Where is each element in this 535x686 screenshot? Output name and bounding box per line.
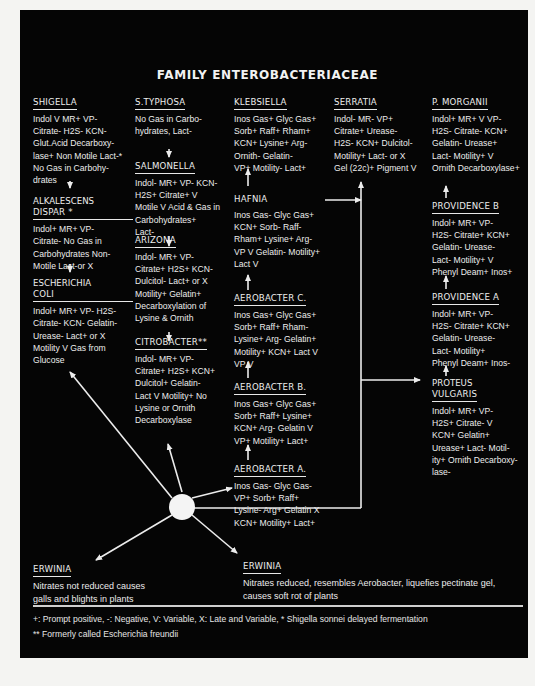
- trait-line: Glucose: [33, 354, 133, 366]
- trait-line: Lysine & Ornith: [135, 312, 230, 324]
- diagram-title: FAMILY ENTEROBACTERIACEAE: [0, 68, 535, 82]
- trait-line: Lysine or Ornith: [135, 402, 230, 414]
- trait-line: Sorb+ Raff+ Rham-: [234, 321, 329, 333]
- trait-line: VP+ Motility+ Lact+: [234, 435, 329, 447]
- trait-line: ity+ Ornith Decarboxy-: [432, 454, 527, 466]
- klebsiella-block: KLEBSIELLA Inos Gas+ Glyc Gas+ Sorb+ Raf…: [234, 96, 329, 174]
- trait-line: Motility+ Lact- or X: [334, 150, 429, 162]
- trait-line: No Gas in Carbohy-: [33, 162, 138, 174]
- ecoli-name-1: ESCHERICHIA: [33, 277, 133, 289]
- trait-line: Ornith Decarboxylase+: [432, 162, 527, 174]
- trait-line: Indol+ MR+ VP-: [432, 217, 527, 229]
- trait-line: KCN+ Sorb- Raff-: [234, 221, 329, 233]
- shigella-block: SHIGELLA Indol V MR+ VP- Citrate- H2S- K…: [33, 96, 138, 186]
- trait-line: Lact- Motility+ V: [432, 254, 527, 266]
- trait-line: Urease+ Lact- Motil-: [432, 442, 527, 454]
- proteus-name-1: PROTEUS: [432, 378, 527, 388]
- hafnia-block: HAFNIA Inos Gas- Glyc Gas+ KCN+ Sorb- Ra…: [234, 193, 329, 270]
- trait-line: H2S- Citrate+ KCN+: [432, 229, 527, 241]
- providence-b-name: PROVIDENCE B: [432, 201, 499, 214]
- trait-line: Indol- MR- VP+: [334, 113, 429, 125]
- erwinia-right-block: ERWINIA Nitrates reduced, resembles Aero…: [243, 560, 495, 602]
- citrobacter-name: CITROBACTER**: [135, 337, 207, 350]
- trait-line: Phenyl Deam+ Inos-: [432, 357, 527, 369]
- trait-line: Lact V Motility+ No: [135, 390, 230, 402]
- trait-line: Motile Lact-or X: [33, 260, 133, 272]
- trait-line: Decarboxylase: [135, 414, 230, 426]
- erwinia-left-block: ERWINIA Nitrates not reduced causes gall…: [33, 563, 145, 605]
- legend-line-2: ** Formerly called Escherichia freundii: [33, 627, 178, 641]
- trait-line: Dulcitol+ Gelatin-: [135, 377, 230, 389]
- trait-line: H2S- KCN+ Dulcitol-: [334, 137, 429, 149]
- trait-line: drates: [33, 174, 138, 186]
- ecoli-name-2: COLI: [33, 289, 133, 302]
- trait-line: lase-: [432, 466, 527, 478]
- trait-line: Gelatin- Urease-: [432, 332, 527, 344]
- trait-line: Dulcitol- Lact+ or X: [135, 275, 230, 287]
- trait-line: galls and blights in plants: [33, 593, 145, 606]
- trait-line: Indol+ MR+ VP-: [33, 223, 133, 235]
- alkalescens-dispar-block: ALKALESCENS DISPAR * Indol+ MR+ VP- Citr…: [33, 195, 133, 272]
- trait-line: Indol- MR+ VP-: [135, 353, 230, 365]
- trait-line: Citrate- H2S- KCN-: [33, 125, 138, 137]
- erwinia-right-name: ERWINIA: [243, 561, 281, 574]
- trait-line: H2S- Citrate- KCN+: [432, 125, 527, 137]
- aerobacter-b-block: AEROBACTER B. Inos Gas+ Glyc Gas+ Sorb+ …: [234, 381, 329, 447]
- aerobacter-c-block: AEROBACTER C. Inos Gas+ Glyc Gas+ Sorb+ …: [234, 292, 329, 370]
- trait-line: Citrate- No Gas in: [33, 235, 133, 247]
- trait-line: Citrate+ Urease-: [334, 125, 429, 137]
- trait-line: Ornith- Gelatin-: [234, 150, 329, 162]
- aerobacter-a-block: AEROBACTER A. Inos Gas- Glyc Gas- VP+ So…: [234, 463, 329, 529]
- trait-line: KCN+ Gelatin+: [432, 429, 527, 441]
- serratia-block: SERRATIA Indol- MR- VP+ Citrate+ Urease-…: [334, 96, 429, 174]
- trait-line: VP+ Motility- Lact+: [234, 162, 329, 174]
- alkalescens-name-1: ALKALESCENS: [33, 195, 133, 207]
- arizona-name: ARIZONA: [135, 235, 176, 248]
- trait-line: Inos Gas+ Glyc Gas+: [234, 113, 329, 125]
- arizona-block: ARIZONA Indol- MR+ VP- Citrate+ H2S+ KCN…: [135, 234, 230, 324]
- trait-line: Indol+ MR+ VP-: [432, 405, 527, 417]
- trait-line: causes soft rot of plants: [243, 590, 495, 603]
- shigella-name: SHIGELLA: [33, 97, 77, 110]
- alkalescens-name-2: DISPAR *: [33, 207, 133, 220]
- trait-line: Inos Gas- Glyc Gas+: [234, 209, 329, 221]
- trait-line: Nitrates reduced, resembles Aerobacter, …: [243, 577, 495, 590]
- trait-line: H2S+ Citrate+ V: [135, 189, 230, 201]
- trait-line: Lact V: [234, 258, 329, 270]
- trait-line: KCN+ Motility+ Lact+: [234, 517, 329, 529]
- trait-line: Indol+ MR+ VP- H2S-: [33, 305, 133, 317]
- s-typhosa-block: S.TYPHOSA No Gas in Carbo- hydrates, Lac…: [135, 96, 230, 137]
- trait-line: Gelatin- Urease+: [432, 137, 527, 149]
- trait-line: Phenyl Deam+ Inos+: [432, 266, 527, 278]
- trait-line: VP V: [234, 358, 329, 370]
- trait-line: lase+ Non Motile Lact-*: [33, 150, 138, 162]
- proteus-vulgaris-block: PROTEUS VULGARIS Indol+ MR+ VP- H2S+ Cit…: [432, 378, 527, 478]
- trait-line: Glut.Acid Decarboxy-: [33, 137, 138, 149]
- klebsiella-name: KLEBSIELLA: [234, 97, 287, 110]
- legend-divider: [33, 605, 523, 607]
- trait-line: H2S- Citrate+ KCN+: [432, 320, 527, 332]
- p-morganii-block: P. MORGANII Indol+ MR+ V VP- H2S- Citrat…: [432, 96, 527, 174]
- trait-line: Inos Gas+ Glyc Gas+: [234, 398, 329, 410]
- salmonella-block: SALMONELLA Indol- MR+ VP- KCN- H2S+ Citr…: [135, 160, 230, 238]
- trait-line: Indol- MR+ VP-: [135, 251, 230, 263]
- trait-line: Motility+ KCN+ Lact V: [234, 346, 329, 358]
- trait-line: Rham+ Lysine+ Arg-: [234, 233, 329, 245]
- trait-line: Lact- Motility+: [432, 345, 527, 357]
- trait-line: Decarboxylation of: [135, 300, 230, 312]
- trait-line: Motility+ Gelatin+: [135, 288, 230, 300]
- trait-line: Sorb+ Raff+ Lysine+: [234, 410, 329, 422]
- trait-line: Carbohydrates+: [135, 214, 230, 226]
- trait-line: Indol+ MR+ VP-: [432, 308, 527, 320]
- aerobacter-c-name: AEROBACTER C.: [234, 293, 306, 306]
- trait-line: VP+ Sorb+ Raff+: [234, 492, 329, 504]
- trait-line: H2S+ Citrate- V: [432, 417, 527, 429]
- proteus-name-2: VULGARIS: [432, 389, 477, 402]
- trait-line: Motile V Acid & Gas in: [135, 201, 230, 213]
- aerobacter-b-name: AEROBACTER B.: [234, 382, 306, 395]
- salmonella-name: SALMONELLA: [135, 161, 195, 174]
- trait-line: Carbohydrates Non-: [33, 248, 133, 260]
- trait-line: Citrate+ H2S+ KCN+: [135, 365, 230, 377]
- trait-line: KCN+ Arg- Gelatin V: [234, 422, 329, 434]
- legend-line-1: +: Prompt positive, -: Negative, V: Vari…: [33, 612, 428, 626]
